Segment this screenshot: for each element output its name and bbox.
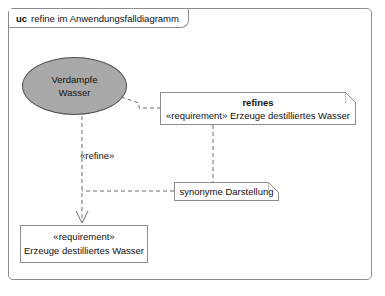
note-refines[interactable]: refines «requirement» Erzeuge destillier… xyxy=(160,92,356,125)
refine-edge-label: «refine» xyxy=(80,150,114,161)
note-synonyme-darstellung[interactable]: synonyme Darstellung xyxy=(174,182,279,201)
note-refines-title: refines xyxy=(242,96,273,109)
note-synonym-text: synonyme Darstellung xyxy=(180,186,274,197)
note-refines-body: «requirement» Erzeuge destilliertes Wass… xyxy=(166,109,350,122)
usecase-name-line-1: Verdampfe xyxy=(52,73,98,86)
note-fold-corner-icon xyxy=(345,92,356,103)
requirement-name: Erzeuge destilliertes Wasser xyxy=(24,244,144,258)
requirement-block[interactable]: «requirement» Erzeuge destilliertes Wass… xyxy=(20,225,148,263)
diagram-title-label: refine im Anwendungsfalldiagramm xyxy=(31,13,179,24)
requirement-stereotype: «requirement» xyxy=(53,230,114,244)
note-fold-corner-icon xyxy=(268,182,279,193)
diagram-canvas: uc refine im Anwendungsfalldiagramm Verd… xyxy=(0,0,385,296)
diagram-frame-title: uc refine im Anwendungsfalldiagramm xyxy=(9,9,189,28)
usecase-verdampfe-wasser[interactable]: Verdampfe Wasser xyxy=(22,57,127,115)
usecase-name-line-2: Wasser xyxy=(59,86,91,99)
diagram-kind-label: uc xyxy=(16,13,27,24)
